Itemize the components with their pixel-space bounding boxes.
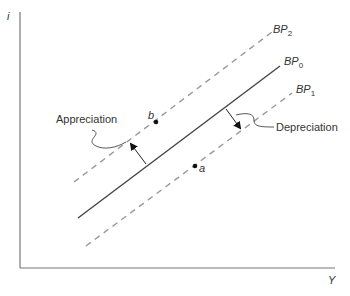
y-axis-label: i xyxy=(7,11,9,22)
bp1-base: BP xyxy=(296,83,311,95)
appreciation-leader xyxy=(92,130,126,148)
bp0-base: BP xyxy=(284,55,299,67)
bp1-sub: 1 xyxy=(311,89,315,98)
bp0-line xyxy=(78,66,280,218)
bp0-sub: 0 xyxy=(299,61,303,70)
point-a-label: a xyxy=(199,163,205,174)
appreciation-arrow xyxy=(131,144,146,164)
bp2-sub: 2 xyxy=(288,29,292,38)
bp2-label: BP2 xyxy=(273,24,292,35)
appreciation-label: Appreciation xyxy=(56,114,117,125)
point-a xyxy=(193,164,198,169)
point-b-label: b xyxy=(148,110,154,121)
x-axis-label: Y xyxy=(328,275,335,286)
bp0-label: BP0 xyxy=(284,56,303,67)
depreciation-label: Depreciation xyxy=(276,122,338,133)
bp2-line xyxy=(74,32,272,182)
point-b xyxy=(154,120,159,125)
bp-diagram xyxy=(0,0,350,296)
bp2-base: BP xyxy=(273,23,288,35)
depreciation-arrow xyxy=(226,109,240,128)
bp1-label: BP1 xyxy=(296,84,315,95)
